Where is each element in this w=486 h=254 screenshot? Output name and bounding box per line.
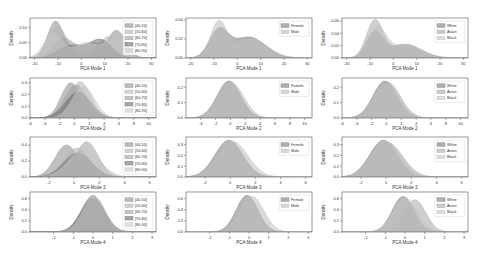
x-tick-label: 20 bbox=[282, 61, 287, 66]
legend-label: Black bbox=[447, 36, 456, 40]
x-axis-label: PCA Mode 4 bbox=[80, 240, 106, 245]
x-tick-label: 0 bbox=[73, 180, 76, 185]
legend-swatch bbox=[125, 168, 133, 172]
legend-swatch bbox=[125, 102, 133, 106]
x-tick-label: 30 bbox=[305, 61, 310, 66]
legend-swatch bbox=[125, 24, 133, 28]
y-tick-label: 0.0 bbox=[177, 115, 183, 120]
y-tick-label: 0.05 bbox=[19, 40, 28, 45]
x-axis-label: PCA Mode 2 bbox=[236, 126, 262, 131]
y-tick-label: 0.04 bbox=[331, 31, 340, 36]
x-tick-label: 1 bbox=[424, 235, 427, 240]
y-tick-label: 0.3 bbox=[333, 142, 339, 147]
legend-label: Asian bbox=[447, 90, 457, 94]
y-tick-label: 0.0 bbox=[333, 174, 339, 179]
x-tick-label: 2 bbox=[287, 235, 290, 240]
y-tick-label: 0.0 bbox=[21, 229, 27, 234]
legend-swatch bbox=[125, 198, 133, 202]
legend-label: Asian bbox=[447, 204, 457, 208]
x-tick-label: 30 bbox=[461, 61, 466, 66]
legend-label: Male bbox=[291, 204, 299, 208]
x-tick-label: -2 bbox=[58, 121, 62, 126]
legend-label: Black bbox=[447, 96, 456, 100]
kde-panel-r1c2: -20-1001020300.000.020.04PCA Mode 1Densi… bbox=[165, 17, 312, 71]
x-tick-label: 1 bbox=[112, 235, 115, 240]
kde-panel-r2c2: -4-202468100.00.10.2PCA Mode 2DensityFem… bbox=[165, 78, 312, 131]
legend: FemaleMale bbox=[279, 195, 309, 210]
legend-label: [50-60] bbox=[135, 90, 147, 94]
legend-swatch bbox=[281, 30, 289, 34]
legend-swatch bbox=[125, 49, 133, 53]
y-tick-label: 0.1 bbox=[177, 164, 183, 169]
legend-label: [80-90] bbox=[135, 49, 147, 53]
x-axis-label: PCA Mode 4 bbox=[392, 240, 418, 245]
x-tick-label: 20 bbox=[438, 61, 443, 66]
legend-swatch bbox=[125, 90, 133, 94]
x-tick-label: 8 bbox=[133, 121, 136, 126]
x-axis-label: PCA Mode 1 bbox=[392, 66, 418, 71]
y-tick-label: 0.4 bbox=[177, 207, 183, 212]
x-tick-label: 30 bbox=[149, 61, 154, 66]
legend-label: [40-50] bbox=[135, 198, 147, 202]
x-tick-label: 6 bbox=[149, 180, 152, 185]
legend: [40-50][50-60][60-70][70-80][80-90] bbox=[123, 195, 153, 229]
x-tick-label: 4 bbox=[435, 180, 438, 185]
legend-swatch bbox=[125, 210, 133, 214]
y-tick-label: 0.00 bbox=[175, 55, 184, 60]
legend-label: Male bbox=[291, 30, 299, 34]
legend: [40-50][50-60][60-70][70-80][80-90] bbox=[123, 21, 153, 55]
legend-swatch bbox=[437, 90, 445, 94]
legend-swatch bbox=[437, 96, 445, 100]
y-axis-label: Density bbox=[321, 149, 326, 165]
y-tick-label: 0.2 bbox=[21, 158, 27, 163]
legend-label: Black bbox=[447, 210, 456, 214]
x-tick-label: -20 bbox=[188, 61, 195, 66]
y-axis-label: Density bbox=[9, 30, 14, 46]
legend-label: [60-70] bbox=[135, 210, 147, 214]
legend: WhiteAsianBlack bbox=[435, 21, 465, 43]
x-tick-label: -2 bbox=[203, 180, 207, 185]
y-tick-label: 0.2 bbox=[177, 153, 183, 158]
x-tick-label: 1 bbox=[268, 235, 271, 240]
legend-swatch bbox=[125, 149, 133, 153]
legend-label: Female bbox=[291, 24, 304, 28]
x-tick-label: 0 bbox=[385, 180, 388, 185]
kde-panel-r3c1: -202460.00.20.4PCA Mode 3Density[40-50][… bbox=[9, 137, 156, 190]
legend-swatch bbox=[281, 84, 289, 88]
legend-label: [40-50] bbox=[135, 24, 147, 28]
x-tick-label: 6 bbox=[430, 121, 433, 126]
y-tick-label: 0.1 bbox=[333, 100, 339, 105]
x-tick-label: -4 bbox=[355, 121, 359, 126]
y-tick-label: 0.3 bbox=[177, 142, 183, 147]
y-tick-label: 0.0 bbox=[177, 174, 183, 179]
x-axis-label: PCA Mode 1 bbox=[80, 66, 106, 71]
y-axis-label: Density bbox=[321, 90, 326, 106]
y-tick-label: 0.00 bbox=[19, 55, 28, 60]
y-tick-label: 0.2 bbox=[333, 153, 339, 158]
x-tick-label: -6 bbox=[340, 121, 344, 126]
x-tick-label: -1 bbox=[384, 235, 388, 240]
legend-swatch bbox=[437, 24, 445, 28]
legend-label: White bbox=[447, 198, 457, 202]
legend-label: White bbox=[447, 143, 457, 147]
y-tick-label: 0.2 bbox=[333, 218, 339, 223]
legend-swatch bbox=[125, 223, 133, 227]
y-tick-label: 0.2 bbox=[177, 218, 183, 223]
x-tick-label: -10 bbox=[211, 61, 218, 66]
legend-swatch bbox=[437, 155, 445, 159]
legend-label: [60-70] bbox=[135, 155, 147, 159]
x-tick-label: 2 bbox=[443, 235, 446, 240]
legend: WhiteAsianBlack bbox=[435, 195, 465, 217]
x-tick-label: 2 bbox=[131, 235, 134, 240]
x-tick-label: 0 bbox=[229, 121, 232, 126]
x-tick-label: 10 bbox=[302, 121, 307, 126]
legend-swatch bbox=[125, 36, 133, 40]
legend-label: Male bbox=[291, 149, 299, 153]
kde-panel-r1c1: -20-1001020300.000.050.10PCA Mode 1Densi… bbox=[9, 18, 156, 71]
y-tick-label: 0.1 bbox=[21, 104, 27, 109]
legend-swatch bbox=[125, 216, 133, 220]
x-tick-label: 4 bbox=[279, 180, 282, 185]
x-tick-label: -6 bbox=[28, 121, 32, 126]
kde-panel-r4c1: -2-101230.00.20.40.6PCA Mode 4Density[40… bbox=[9, 192, 156, 245]
x-tick-label: -10 bbox=[55, 61, 62, 66]
